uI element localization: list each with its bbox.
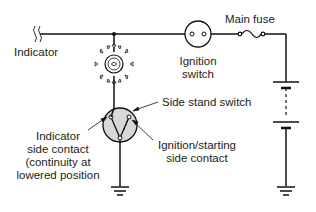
label-indicator: Indicator — [14, 46, 58, 59]
side-stand-switch-icon — [103, 108, 137, 142]
battery-icon — [273, 82, 299, 186]
label-side-stand-switch: Side stand switch — [162, 96, 252, 109]
main-fuse-icon — [238, 31, 265, 38]
label-ignition-switch: Ignition switch — [170, 55, 226, 81]
ground-icon-left — [111, 187, 129, 195]
top-wire — [40, 34, 286, 82]
wire-break-icon — [34, 26, 42, 42]
label-indicator-side-contact: Indicator side contact (continuity at lo… — [12, 130, 104, 182]
label-main-fuse: Main fuse — [225, 13, 275, 26]
ignition-switch-icon — [185, 21, 211, 47]
ground-icon-right — [277, 187, 295, 195]
label-ignition-starting-side-contact: Ignition/starting side contact — [152, 139, 242, 165]
